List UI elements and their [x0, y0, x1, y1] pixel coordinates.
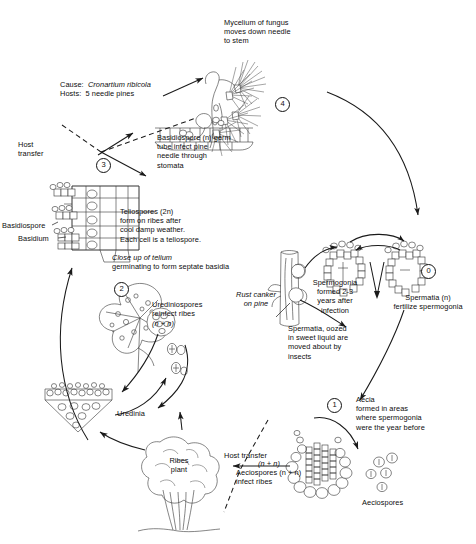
cause-label: Cause: [60, 80, 84, 89]
label-rust-canker-on-pine: Rust canker on pine [232, 290, 280, 308]
basidia-row-3 [54, 227, 79, 241]
urediniospores-illustration [167, 343, 187, 375]
arrow-step4-to-spermogonia [327, 92, 418, 215]
rust-canker-pine-trunk [268, 251, 307, 327]
arrowhead-spermatia-v [374, 291, 380, 299]
leader-basidiospore [52, 222, 58, 225]
step-marker-0[interactable]: 0 [421, 264, 436, 279]
step-marker-2[interactable]: 2 [114, 282, 129, 297]
arrow-spermatia-v [370, 262, 384, 296]
label-spermatia-fertilize: Spermatia (n) fertilize spermogonia [382, 293, 474, 311]
uredinia-illustration [45, 383, 112, 432]
label-closeup-telium-line2: germinating to form septate basidia [112, 262, 262, 271]
cause-host-block: Cause: Cronartium ribicolaHosts: 5 needl… [60, 80, 190, 98]
label-urediniospores-ploidy: (n + n) [152, 319, 174, 328]
label-teliospores: Teliospores (2n) form on ribes after coo… [120, 207, 228, 244]
step-marker-3[interactable]: 3 [96, 158, 111, 173]
label-ribes-plant: Ribes plant [159, 456, 199, 474]
label-uredinia: Uredinia [117, 409, 145, 418]
label-spermogonia: Spermogonia formed 2-3 years after infec… [304, 278, 366, 315]
label-closeup-telium: Close up of telium [112, 253, 172, 262]
basidia-row-4 [58, 243, 79, 249]
cause-value: Cronartium ribicola [88, 80, 151, 89]
label-aeciospores: Aeciospores [362, 498, 403, 507]
label-spermatia-oozed: Spermatia, oozed in sweet liquid are mov… [288, 324, 374, 361]
hosts-label: Hosts: [60, 89, 81, 98]
label-basidium-pointer: Basidium [18, 234, 49, 243]
dashed-host-transfer-top [62, 125, 101, 152]
ribes-plant-illustration [138, 437, 220, 532]
arrow-leaf-to-uredinia [122, 334, 158, 392]
arrow-ribes-to-uredinia [100, 432, 145, 450]
basidia-row-2 [52, 205, 77, 219]
arrow-uredinia-to-telia [60, 268, 88, 440]
step-marker-4[interactable]: 4 [275, 97, 290, 112]
label-host-transfer-top: Host transfer [18, 140, 62, 158]
arrow-ribes-up [180, 412, 182, 430]
label-aecia-ploidy: (n + n) [258, 459, 280, 468]
label-aecia: Aecia formed in areas where spermogonia … [356, 395, 458, 432]
label-basidiospore-germ-tube: Basidiospore (n) germ tube infect pine n… [157, 133, 247, 170]
aecia-illustration [286, 430, 352, 498]
arrow-host-transfer-up [98, 133, 133, 155]
basidia-row-1 [50, 182, 75, 196]
aeciospores-illustration [366, 453, 397, 492]
label-basidiospore-pointer: Basidiospore [2, 221, 45, 230]
arrow-spermatia-cross-a [350, 234, 404, 242]
hosts-value: 5 needle pines [85, 89, 134, 98]
diagram-canvas: Cause: Cronartium ribicolaHosts: 5 needl… [0, 0, 476, 544]
label-mycelium: Mycelium of fungus moves down needle to … [224, 18, 344, 46]
step-marker-1[interactable]: 1 [327, 398, 342, 413]
label-urediniospores: Urediniospores reinfect ribes [152, 300, 232, 318]
label-aeciospores-infect-ribes: Aeciospores (n + n) infect ribes [236, 468, 336, 486]
arrow-aecia-to-aeciospores [314, 418, 358, 449]
